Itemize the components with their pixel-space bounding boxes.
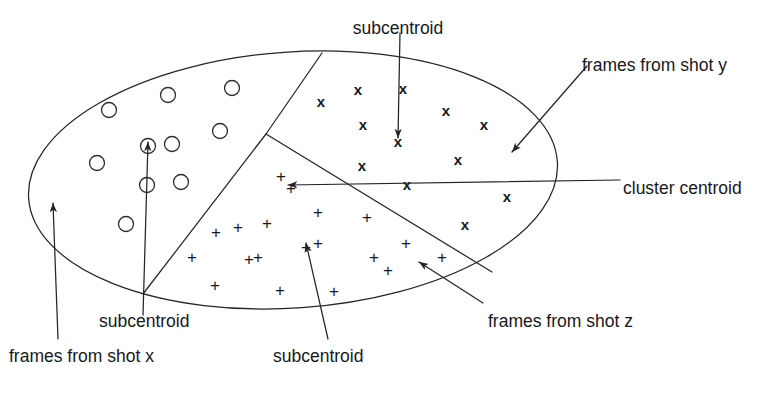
x-marker: x [442,102,451,119]
circle-marker [161,88,176,103]
label-subcentroid-bottom: subcentroid [273,348,363,366]
label-subcentroid-left: subcentroid [99,313,189,331]
plus-marker: + [369,248,379,267]
x-marker: x [480,116,489,133]
divider-upper [266,53,322,134]
leader-frames-shot-y [512,66,587,152]
leader-cluster-centroid [288,180,620,185]
circle-marker [174,175,189,190]
divider-lower-left [143,134,266,294]
plus-marker: + [286,179,296,198]
plus-marker: + [383,261,393,280]
x-marker: x [503,188,512,205]
plus-marker: + [401,234,411,253]
circle-marker [102,103,117,118]
plus-marker: + [437,248,447,267]
plus-marker: + [187,248,197,267]
x-marker: x [358,157,367,174]
label-frames-from-shot-y: frames from shot y [582,57,727,75]
x-marker: x [359,116,368,133]
circle-marker [225,81,240,96]
plus-marker: + [313,234,323,253]
data-point-markers: xxxxxxxxxxxx+++++++++++++++++++ [90,80,512,301]
x-marker: x [454,151,463,168]
plus-marker: + [211,223,221,242]
circle-marker [213,124,228,139]
leader-subcentroid-bottom [306,243,328,339]
plus-marker: + [233,218,243,237]
plus-marker: + [262,214,272,233]
x-marker: x [354,81,363,98]
plus-marker: + [313,203,323,222]
plus-marker: + [362,208,372,227]
plus-marker: + [244,250,254,269]
circle-marker [119,217,134,232]
plus-marker: + [329,282,339,301]
plus-marker: + [275,281,285,300]
x-marker: x [461,216,470,233]
label-frames-from-shot-x: frames from shot x [9,348,154,366]
label-frames-from-shot-z: frames from shot z [488,313,633,331]
plus-marker: + [253,248,263,267]
plus-marker: + [301,238,311,257]
x-marker: x [317,93,326,110]
label-cluster-centroid: cluster centroid [623,180,742,198]
plus-marker: + [276,167,286,186]
label-subcentroid-top: subcentroid [353,20,443,38]
plus-marker: + [210,276,220,295]
leader-frames-shot-x [53,203,58,339]
x-marker: x [403,176,412,193]
figure-canvas: xxxxxxxxxxxx+++++++++++++++++++ subcentr… [0,0,779,397]
circle-marker [90,156,105,171]
circle-marker [165,137,180,152]
x-marker: x [399,80,408,97]
